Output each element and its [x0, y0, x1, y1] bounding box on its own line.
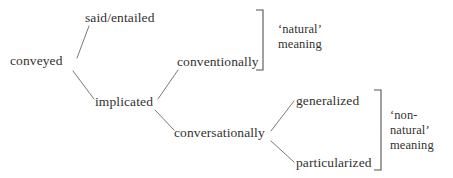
node-label-implicated: implicated — [95, 94, 153, 109]
non-natural-meaning-bracket — [374, 90, 381, 170]
non-natural-meaning-bracket-label-line-2: natural’ — [390, 123, 430, 137]
branch-line-implicated-to-conversationally — [155, 110, 174, 130]
node-label-said: said/entailed — [85, 10, 155, 25]
branch-line-implicated-to-conventionally — [158, 70, 178, 99]
meaning-taxonomy-diagram: conveyedsaid/entailedimplicatedconventio… — [0, 0, 453, 178]
non-natural-meaning-bracket-label-line-1: ‘non- — [390, 108, 418, 122]
natural-meaning-bracket-label-line-2: meaning — [278, 37, 322, 51]
node-label-conversationally: conversationally — [174, 125, 265, 140]
node-label-conventionally: conventionally — [177, 54, 259, 69]
node-label-generalized: generalized — [296, 93, 359, 108]
branch-line-conversationally-to-generalized — [271, 101, 294, 131]
branch-line-conveyed-to-implicated — [73, 71, 94, 99]
tree-diagram-canvas: conveyedsaid/entailedimplicatedconventio… — [0, 0, 453, 178]
natural-meaning-bracket-label-line-1: ‘natural’ — [278, 22, 322, 36]
node-label-particularized: particularized — [296, 155, 372, 170]
non-natural-meaning-bracket-label-line-3: meaning — [390, 138, 434, 152]
branch-line-conveyed-to-said — [77, 26, 89, 58]
bracket-annotation-labels-group: ‘natural’meaning‘non-natural’meaning — [278, 22, 434, 152]
branch-line-conversationally-to-particularized — [271, 141, 294, 162]
node-label-root: conveyed — [10, 53, 63, 68]
